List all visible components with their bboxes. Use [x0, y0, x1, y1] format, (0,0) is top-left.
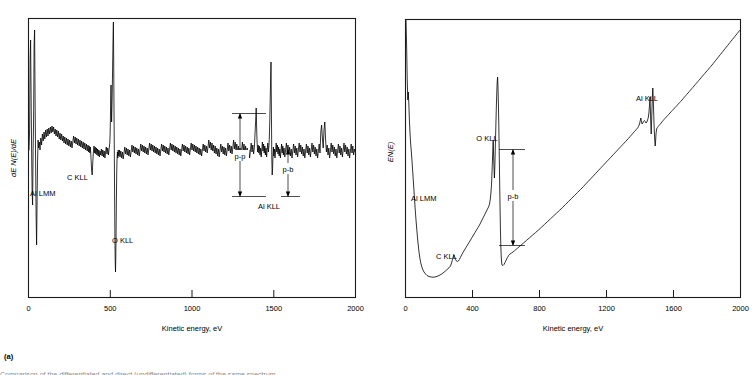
panel-b-label-al-lmm: Al LMM	[411, 194, 436, 203]
panel-b-xtick-2000: 2000	[732, 304, 749, 313]
panel-b-xtick-400: 400	[466, 304, 479, 313]
panel-b: EN(E) 0 400 800 1200 1600 2000 Kinetic e…	[377, 0, 755, 375]
panel-b-y-axis-label: EN(E)	[386, 141, 395, 162]
panel-b-plot: EN(E) 0 400 800 1200 1600 2000 Kinetic e…	[377, 0, 755, 350]
panel-b-label-pb: p-b	[508, 192, 519, 201]
panel-b-label-al-kll: Al KLL	[636, 94, 658, 103]
figure-caption: Comparison of the differentiated and dir…	[0, 369, 755, 375]
panel-a-xtick-1500: 1500	[265, 304, 282, 313]
panel-a-plot: dE N(E)/dE 0 500 1000 1500 2000 Kinetic …	[0, 0, 378, 350]
panel-b-xtick-1200: 1200	[598, 304, 615, 313]
panel-a-xtick-2000: 2000	[347, 304, 364, 313]
panel-b-spectrum-trace	[406, 20, 741, 277]
panel-a-spectrum-trace	[29, 22, 355, 272]
panel-a: dE N(E)/dE 0 500 1000 1500 2000 Kinetic …	[0, 0, 378, 375]
panel-a-label-al-kll: Al KLL	[258, 202, 280, 211]
panel-b-label-c-kll: C KLL	[436, 252, 457, 261]
panel-a-plot-frame	[29, 19, 356, 298]
panel-a-label-pb: p-b	[283, 165, 294, 174]
panel-b-pb-annotation: p-b	[499, 149, 525, 246]
panel-a-y-axis-label: dE N(E)/dE	[9, 138, 18, 177]
panel-a-label-c-kll: C KLL	[67, 173, 88, 182]
panel-a-xtick-1000: 1000	[184, 304, 201, 313]
panel-a-tag: (a)	[4, 352, 13, 361]
panel-b-xtick-800: 800	[533, 304, 546, 313]
panel-b-xtick-1600: 1600	[665, 304, 682, 313]
panel-a-label-pp: p-p	[235, 152, 246, 161]
panel-a-xtick-0: 0	[26, 304, 30, 313]
panel-b-label-o-kll: O KLL	[476, 134, 497, 143]
panel-b-x-ticks	[406, 290, 741, 298]
panel-b-x-axis-label: Kinetic energy, eV	[543, 324, 603, 333]
panel-a-x-ticks	[29, 290, 356, 298]
panel-a-x-axis-label: Kinetic energy, eV	[162, 324, 222, 333]
figure-container: dE N(E)/dE 0 500 1000 1500 2000 Kinetic …	[0, 0, 755, 375]
panel-b-xtick-0: 0	[403, 304, 407, 313]
panel-a-label-al-lmm: Al LMM	[30, 189, 55, 198]
panel-a-label-o-kll: O KLL	[112, 236, 133, 245]
panel-a-xtick-500: 500	[104, 304, 117, 313]
